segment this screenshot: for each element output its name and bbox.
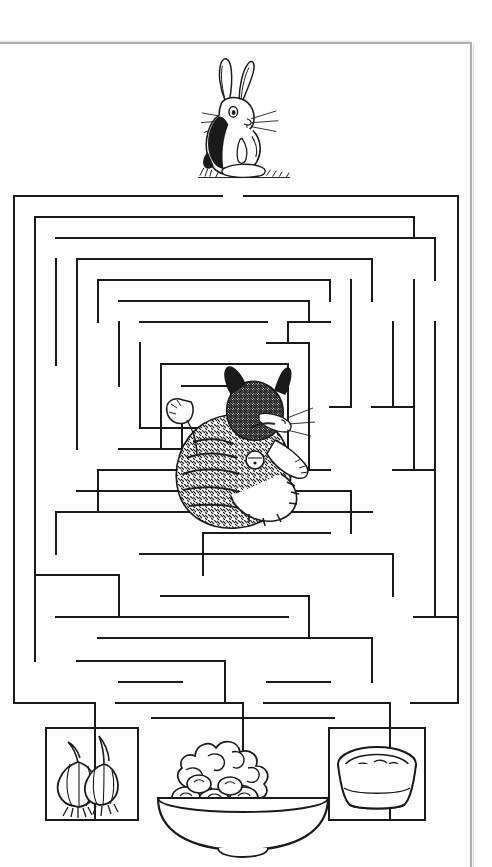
maze-artwork [0,0,492,867]
pet-bowl-icon [338,747,416,809]
worksheet-page [0,0,492,867]
